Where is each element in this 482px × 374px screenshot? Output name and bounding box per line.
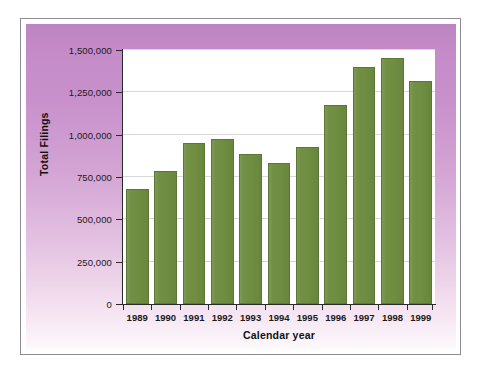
bar [154, 171, 177, 304]
bar-shading [184, 144, 205, 303]
y-tick-label: 500,000 [77, 214, 112, 225]
bar-shading [240, 155, 261, 303]
x-tick-mark [293, 305, 294, 310]
y-tick-mark [116, 219, 123, 220]
bar [324, 105, 347, 304]
y-tick-label-wrap: 750,000 [26, 177, 112, 178]
x-tick-label: 1999 [410, 312, 431, 323]
x-tick-label: 1995 [297, 312, 318, 323]
y-tick-label: 1,000,000 [69, 129, 112, 140]
bar-shading [354, 68, 375, 303]
x-tick-label: 1989 [127, 312, 148, 323]
y-tick-mark [116, 135, 123, 136]
bar-shading [410, 82, 431, 303]
gridline [123, 49, 435, 50]
x-tick-label: 1993 [240, 312, 261, 323]
bar-shading [269, 164, 290, 303]
y-tick-mark [116, 304, 123, 305]
x-tick-label: 1997 [354, 312, 375, 323]
x-tick-mark [123, 305, 124, 310]
bar-shading [212, 140, 233, 303]
x-tick-label: 1992 [212, 312, 233, 323]
x-tick-mark [322, 305, 323, 310]
x-axis-title: Calendar year [123, 329, 435, 341]
x-tick-mark [265, 305, 266, 310]
bar-shading [297, 148, 318, 303]
y-tick-label: 1,500,000 [69, 45, 112, 56]
y-tick-mark [116, 50, 123, 51]
x-tick-label: 1991 [183, 312, 204, 323]
chart-figure: 0250,000500,000750,0001,000,0001,250,000… [20, 18, 461, 355]
y-tick-label-wrap: 0 [26, 304, 112, 305]
x-tick-label: 1990 [155, 312, 176, 323]
y-tick-label: 0 [107, 299, 112, 310]
x-axis-line [122, 304, 436, 305]
x-tick-label: 1994 [268, 312, 289, 323]
y-tick-mark [116, 177, 123, 178]
bar [126, 189, 149, 304]
y-tick-label-wrap: 500,000 [26, 219, 112, 220]
y-axis-title: Total Filings [38, 112, 50, 176]
y-tick-mark [116, 92, 123, 93]
bar [353, 67, 376, 304]
x-tick-label: 1996 [325, 312, 346, 323]
bar-shading [325, 106, 346, 303]
plot-area [123, 50, 435, 304]
y-tick-label: 250,000 [77, 256, 112, 267]
x-tick-mark [407, 305, 408, 310]
bar [381, 58, 404, 304]
bar [296, 147, 319, 304]
x-tick-mark [236, 305, 237, 310]
bar-shading [127, 190, 148, 303]
bar [239, 154, 262, 304]
bar [409, 81, 432, 304]
y-tick-label-wrap: 1,500,000 [26, 50, 112, 51]
chart-gradient-panel: 0250,000500,000750,0001,000,0001,250,000… [26, 24, 456, 350]
y-tick-label: 750,000 [77, 172, 112, 183]
bar-shading [155, 172, 176, 303]
bar [183, 143, 206, 304]
x-tick-mark [151, 305, 152, 310]
x-tick-mark [432, 305, 433, 310]
bar [268, 163, 291, 304]
y-tick-label: 1,250,000 [69, 87, 112, 98]
x-tick-mark [350, 305, 351, 310]
y-tick-mark [116, 262, 123, 263]
x-tick-mark [180, 305, 181, 310]
x-tick-mark [378, 305, 379, 310]
y-tick-label-wrap: 250,000 [26, 262, 112, 263]
x-tick-mark [208, 305, 209, 310]
x-tick-label: 1998 [382, 312, 403, 323]
bar-shading [382, 59, 403, 303]
bar [211, 139, 234, 304]
y-tick-label-wrap: 1,250,000 [26, 92, 112, 93]
